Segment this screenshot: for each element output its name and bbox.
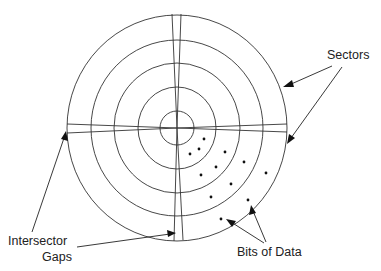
- disk-diagram: Sectors Intersector Gaps Bits of Data: [0, 0, 381, 271]
- sectors-arrow-2-head: [287, 134, 295, 144]
- data-bit-dot: [247, 199, 250, 202]
- bits-arrow-1-head: [226, 219, 236, 227]
- data-bit-dot: [203, 138, 206, 141]
- sectors-arrow-1-head: [283, 80, 294, 87]
- data-bit-dot: [210, 196, 213, 199]
- bits-of-data-label: Bits of Data: [237, 245, 302, 259]
- bits-of-data-callout: Bits of Data: [226, 205, 302, 259]
- data-bit-dot: [215, 166, 218, 169]
- data-bit-dot: [265, 172, 268, 175]
- bits-arrow-2-head: [249, 205, 256, 215]
- data-bit-dot: [224, 151, 227, 154]
- intersector-label-line1: Intersector: [8, 234, 67, 248]
- sectors-arrow-2-line: [291, 67, 342, 138]
- sectors-callout: Sectors: [283, 48, 369, 144]
- sectors-arrow-1-line: [289, 66, 332, 85]
- data-bit-dot: [198, 148, 201, 151]
- intersector-gaps-callout: Intersector Gaps: [8, 131, 176, 264]
- data-bit-dot: [230, 183, 233, 186]
- intersector-label-line2: Gaps: [42, 250, 72, 264]
- data-bit-dot: [200, 174, 203, 177]
- sectors-label: Sectors: [327, 48, 369, 62]
- gaps-arrow-2-line: [77, 234, 170, 247]
- data-bit-dot: [189, 153, 192, 156]
- data-bits: [189, 138, 268, 221]
- gaps-arrow-1-line: [32, 138, 64, 232]
- intersector-gap-lines: [67, 14, 287, 241]
- data-bit-dot: [243, 161, 246, 164]
- data-bit-dot: [220, 218, 223, 221]
